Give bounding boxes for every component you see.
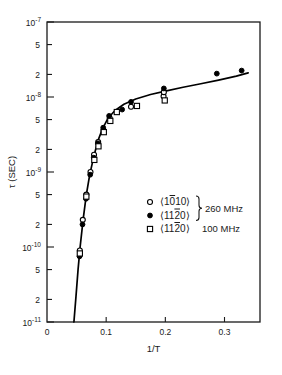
y-tick-label: 2 <box>35 295 40 305</box>
data-point <box>107 113 112 118</box>
y-tick-label: 2 <box>35 220 40 230</box>
legend-direction: ⟨1120⟩ <box>160 223 190 234</box>
legend-direction: ⟨1010⟩ <box>160 196 190 207</box>
data-point <box>120 107 125 112</box>
legend-direction: ⟨1120⟩ <box>160 210 190 221</box>
y-tick-label: 5 <box>35 40 40 50</box>
legend-marker <box>148 200 153 205</box>
data-point <box>77 251 82 256</box>
y-tick-label: 5 <box>35 265 40 275</box>
legend-brace <box>196 196 202 221</box>
x-tick-label: 0 <box>45 327 50 337</box>
plot-frame <box>47 22 260 322</box>
data-point <box>101 130 106 135</box>
y-tick-label: 2 <box>35 70 40 80</box>
y-axis-label: τ (SEC) <box>6 156 17 188</box>
data-point <box>108 118 113 123</box>
y-tick-label: 10-11 <box>23 316 42 328</box>
y-tick-label: 10-8 <box>26 91 42 103</box>
legend-marker <box>147 226 152 231</box>
data-point <box>134 103 139 108</box>
data-point <box>114 109 119 114</box>
figure-container: 10-75210-85210-95210-105210-1100.10.20.3… <box>0 0 282 375</box>
x-tick-label: 0.1 <box>100 327 112 337</box>
data-point <box>239 68 244 73</box>
x-tick-label: 0.2 <box>159 327 171 337</box>
x-axis-label: 1/T <box>147 343 161 354</box>
data-point <box>84 194 89 199</box>
y-tick-label: 5 <box>35 190 40 200</box>
data-point <box>214 71 219 76</box>
data-point <box>92 157 97 162</box>
data-point <box>88 172 93 177</box>
data-point <box>129 104 134 109</box>
data-point <box>162 98 167 103</box>
x-tick-label: 0.3 <box>219 327 231 337</box>
y-tick-label: 2 <box>35 145 40 155</box>
data-point <box>96 144 101 149</box>
y-tick-label: 5 <box>35 115 40 125</box>
legend-freq-100: 100 MHz <box>202 223 240 234</box>
relaxation-time-plot: 10-75210-85210-95210-105210-1100.10.20.3… <box>0 0 282 375</box>
y-tick-label: 10-10 <box>22 241 41 253</box>
legend-freq-260: 260 MHz <box>205 203 243 214</box>
data-point <box>129 100 134 105</box>
data-point <box>80 222 85 227</box>
data-point <box>161 86 166 91</box>
legend-marker <box>148 213 153 218</box>
y-tick-label: 10-9 <box>26 166 42 178</box>
y-tick-label: 10-7 <box>26 16 42 28</box>
